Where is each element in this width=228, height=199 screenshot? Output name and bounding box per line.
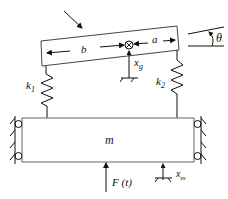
incoming-force-arrow [64, 11, 82, 28]
label-force: F (t) [111, 176, 132, 189]
vibration-diagram: b a xg θ k1 k2 m [0, 0, 228, 199]
label-b: b [81, 43, 87, 55]
label-xg: xg [133, 56, 143, 71]
center-of-gravity-icon [125, 41, 133, 49]
left-roller-support-icon [10, 116, 22, 164]
a-arrow-right [163, 40, 175, 41]
label-k2: k2 [156, 75, 165, 90]
spring-k2 [171, 50, 183, 118]
b-arrow-right [100, 45, 124, 47]
spring-k1 [41, 66, 53, 118]
label-m: m [105, 133, 114, 147]
b-arrow-left [47, 51, 70, 53]
label-k1: k1 [26, 79, 35, 94]
xg-ground-icon [120, 78, 138, 82]
a-arrow-left [134, 43, 148, 44]
label-a: a [152, 33, 158, 45]
right-roller-support-icon [194, 116, 206, 164]
label-xm: xm [175, 168, 186, 182]
label-theta: θ [216, 31, 222, 45]
